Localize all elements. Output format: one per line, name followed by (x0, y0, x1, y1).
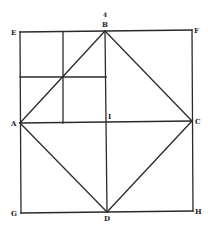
label-G: G (11, 210, 17, 217)
label-H: H (195, 208, 202, 215)
label-C: C (195, 118, 201, 125)
label-D: D (104, 215, 110, 222)
segment-BC (105, 31, 192, 121)
label-B: B (102, 21, 108, 28)
figure-number: 4 (103, 12, 107, 18)
segment-CD (107, 121, 192, 212)
label-I: I (108, 113, 111, 120)
label-A: A (11, 120, 16, 127)
label-E: E (11, 29, 16, 36)
segment-DA (20, 123, 107, 212)
geometric-figure (0, 0, 208, 233)
label-F: F (194, 27, 199, 34)
